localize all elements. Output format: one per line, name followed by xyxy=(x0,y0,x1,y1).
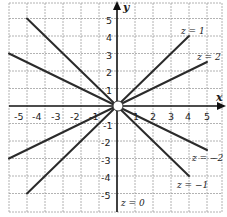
origin-open-circle xyxy=(113,101,123,111)
x-axis-label: x xyxy=(215,91,223,104)
svg-text:-2: -2 xyxy=(101,137,110,148)
svg-text:2: 2 xyxy=(106,67,112,78)
label-zm2: z = −2 xyxy=(191,153,224,163)
label-z1: z = 1 xyxy=(180,26,205,36)
svg-text:-5: -5 xyxy=(101,190,110,201)
svg-text:3: 3 xyxy=(168,111,174,122)
label-z2: z = 2 xyxy=(196,52,221,62)
svg-text:-4: -4 xyxy=(32,111,41,122)
svg-text:4: 4 xyxy=(106,32,112,43)
svg-text:-1: -1 xyxy=(103,120,112,131)
svg-text:-4: -4 xyxy=(101,172,110,183)
label-zm1: z = −1 xyxy=(176,180,208,190)
y-axis-arrow-icon xyxy=(113,1,121,10)
svg-text:4: 4 xyxy=(185,111,191,122)
svg-text:3: 3 xyxy=(106,50,112,61)
svg-text:5: 5 xyxy=(106,15,112,26)
svg-text:-2: -2 xyxy=(70,111,79,122)
svg-text:1: 1 xyxy=(133,111,139,122)
label-z0: z = 0 xyxy=(120,198,145,208)
svg-text:-5: -5 xyxy=(14,111,23,122)
svg-text:2: 2 xyxy=(150,111,156,122)
svg-text:-3: -3 xyxy=(101,155,110,166)
level-curves-plot: y x -5 -4 -3 -2 -1 1 2 3 4 5 5 4 3 2 1 -… xyxy=(0,0,227,217)
svg-text:-1: -1 xyxy=(89,111,98,122)
svg-text:1: 1 xyxy=(106,85,112,96)
svg-text:5: 5 xyxy=(204,111,210,122)
svg-text:-3: -3 xyxy=(51,111,60,122)
